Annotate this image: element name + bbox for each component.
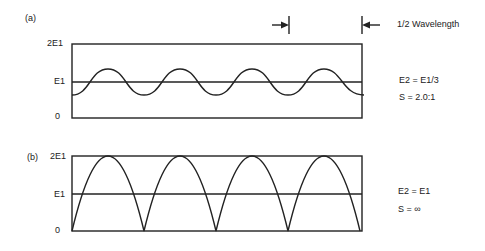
panel-a-frame [72,44,362,118]
standing-wave-diagram [0,0,485,251]
